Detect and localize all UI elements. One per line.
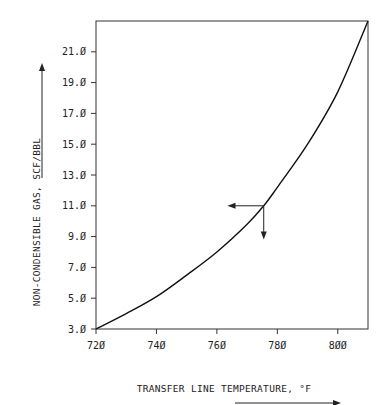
- x-axis-arrow-icon: [235, 400, 341, 405]
- y-tick-label: 17.Ø: [62, 108, 86, 119]
- plot-frame: [96, 21, 368, 329]
- y-tick-label: 21.Ø: [62, 46, 86, 57]
- y-tick-label: 9.Ø: [68, 231, 86, 242]
- x-tick-label: 78Ø: [268, 340, 286, 351]
- x-tick-label: 72Ø: [87, 340, 105, 351]
- x-tick-label: 76Ø: [208, 340, 226, 351]
- data-curve: [96, 21, 368, 329]
- y-tick-label: 13.Ø: [62, 170, 86, 181]
- x-tick-label: 74Ø: [147, 340, 165, 351]
- y-tick-label: 5.Ø: [68, 293, 86, 304]
- x-tick-label: 8ØØ: [329, 340, 347, 351]
- x-axis-label: TRANSFER LINE TEMPERATURE, °F: [137, 383, 312, 394]
- arrow-left-icon: [228, 203, 236, 209]
- y-axis-ticks: 3.Ø5.Ø7.Ø9.Ø11.Ø13.Ø15.Ø17.Ø19.Ø21.Ø: [62, 46, 96, 334]
- x-axis-ticks: 72Ø74Ø76Ø78Ø8ØØ: [87, 329, 347, 351]
- y-tick-label: 19.Ø: [62, 77, 86, 88]
- y-tick-label: 15.Ø: [62, 139, 86, 150]
- arrow-down-icon: [261, 232, 267, 240]
- chart: 3.Ø5.Ø7.Ø9.Ø11.Ø13.Ø15.Ø17.Ø19.Ø21.Ø 72Ø…: [0, 0, 390, 405]
- y-tick-label: 3.Ø: [68, 324, 86, 335]
- y-tick-label: 11.Ø: [62, 200, 86, 211]
- y-tick-label: 7.Ø: [68, 262, 86, 273]
- y-axis-label: NON-CONDENSIBLE GAS, SCF/BBL: [31, 138, 42, 307]
